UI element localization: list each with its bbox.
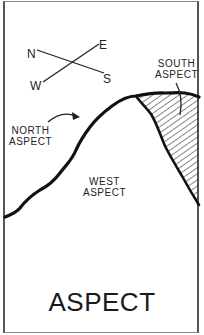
north-aspect-label: NORTH ASPECT <box>9 125 52 147</box>
compass-icon <box>37 44 104 82</box>
compass-north-label: N <box>27 48 36 60</box>
west-aspect-label: WEST ASPECT <box>83 176 126 198</box>
north-aspect-arrow-icon <box>48 112 80 122</box>
compass-south-label: S <box>103 73 111 85</box>
south-aspect-label: SOUTH ASPECT <box>155 58 198 80</box>
compass-west-label: W <box>30 80 41 92</box>
compass-east-label: E <box>99 39 107 51</box>
diagram-title: ASPECT <box>0 288 204 316</box>
